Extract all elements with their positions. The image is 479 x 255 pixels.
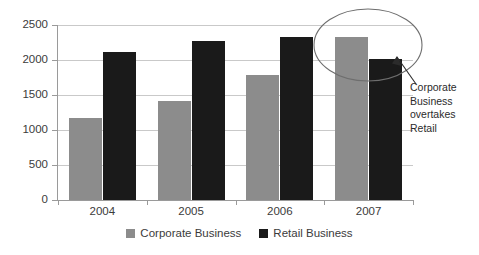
y-axis-tick-label: 2000: [4, 54, 48, 66]
y-axis-tick-label: 2500: [4, 19, 48, 31]
y-axis-tick: [52, 165, 58, 166]
gridline: [58, 25, 413, 26]
x-axis-tick: [147, 200, 148, 205]
legend-entry-corporate-business: Corporate Business: [126, 228, 241, 240]
bar-corporate-business-2004: [69, 118, 102, 200]
annotation-line-1: Corporate: [410, 81, 478, 95]
bar-chart: 05001000150020002500 2004200520062007 Co…: [0, 0, 479, 255]
bar-corporate-business-2006: [246, 75, 279, 200]
bar-corporate-business-2005: [158, 101, 191, 200]
chart-legend: Corporate BusinessRetail Business: [0, 228, 479, 240]
legend-entry-retail-business: Retail Business: [259, 228, 352, 240]
x-axis-tick: [236, 200, 237, 205]
bar-corporate-business-2007: [335, 37, 368, 200]
annotation-line-3: overtakes: [410, 108, 478, 122]
bar-retail-business-2004: [103, 52, 136, 200]
legend-label: Corporate Business: [140, 228, 241, 240]
y-axis-tick-label: 0: [4, 194, 48, 206]
annotation-line-4: Retail: [410, 122, 478, 136]
black-swatch-icon: [259, 229, 268, 238]
annotation-label: Corporate Business overtakes Retail: [410, 81, 478, 135]
bar-retail-business-2006: [280, 37, 313, 200]
y-axis-tick-label: 500: [4, 159, 48, 171]
x-axis-label-2007: 2007: [334, 206, 404, 218]
x-axis-tick: [58, 200, 59, 205]
y-axis-tick: [52, 95, 58, 96]
y-axis-tick-label: 1500: [4, 89, 48, 101]
x-axis-label-2006: 2006: [245, 206, 315, 218]
y-axis-tick-label: 1000: [4, 124, 48, 136]
x-axis-label-2004: 2004: [67, 206, 137, 218]
x-axis-label-2005: 2005: [156, 206, 226, 218]
y-axis-tick: [52, 60, 58, 61]
bar-retail-business-2007: [369, 59, 402, 200]
bar-retail-business-2005: [192, 41, 225, 200]
y-axis-tick: [52, 130, 58, 131]
gray-swatch-icon: [126, 229, 135, 238]
annotation-line-2: Business: [410, 95, 478, 109]
y-axis-tick: [52, 25, 58, 26]
legend-label: Retail Business: [273, 228, 352, 240]
x-axis-tick: [324, 200, 325, 205]
y-axis-line: [57, 25, 58, 201]
x-axis-tick: [413, 200, 414, 205]
